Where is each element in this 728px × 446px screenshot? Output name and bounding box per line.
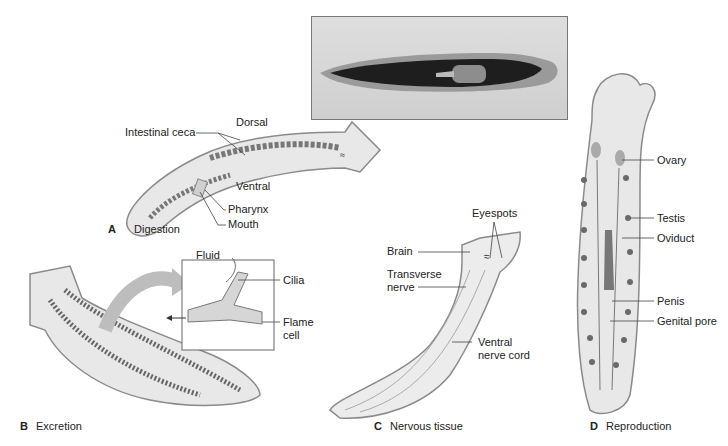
svg-text:≈: ≈ [484, 251, 490, 262]
label-genital-pore: Genital pore [657, 315, 717, 328]
panel-c-body: ≈ [330, 232, 520, 418]
label-brain: Brain [387, 245, 413, 258]
panel-a-letter: A [108, 223, 116, 235]
panel-a-title: Digestion [134, 223, 180, 235]
panel-b-letter: B [20, 420, 28, 432]
label-fluid: Fluid [196, 249, 220, 262]
label-eyespots: Eyespots [472, 207, 517, 220]
svg-text:≈: ≈ [340, 150, 345, 160]
panel-d-letter: D [590, 420, 598, 432]
panel-b-body [30, 260, 274, 405]
label-flame-2: cell [283, 329, 300, 342]
label-oviduct: Oviduct [657, 232, 694, 245]
panel-c-caption: C Nervous tissue [374, 420, 463, 432]
panel-a-caption: A Digestion [108, 223, 180, 235]
label-ventral-cord-2: nerve cord [478, 349, 530, 362]
panel-b-title: Excretion [36, 420, 82, 432]
panel-d-body [578, 74, 655, 414]
label-cilia: Cilia [283, 274, 304, 287]
label-ventral-cord-1: Ventral [478, 336, 512, 349]
label-pharynx: Pharynx [228, 203, 268, 216]
label-penis: Penis [657, 295, 685, 308]
label-testis: Testis [657, 212, 685, 225]
panel-c-letter: C [374, 420, 382, 432]
label-flame-1: Flame [283, 316, 314, 329]
panel-c-title: Nervous tissue [390, 420, 463, 432]
panel-b-caption: B Excretion [20, 420, 82, 432]
label-dorsal: Dorsal [236, 116, 268, 129]
label-intestinal-ceca: Intestinal ceca [125, 126, 195, 139]
label-transverse-1: Transverse [387, 268, 442, 281]
panel-d-title: Reproduction [606, 420, 671, 432]
label-ovary: Ovary [657, 154, 686, 167]
label-transverse-2: nerve [387, 281, 415, 294]
panel-d-caption: D Reproduction [590, 420, 671, 432]
label-mouth: Mouth [228, 218, 259, 231]
label-ventral: Ventral [236, 180, 270, 193]
